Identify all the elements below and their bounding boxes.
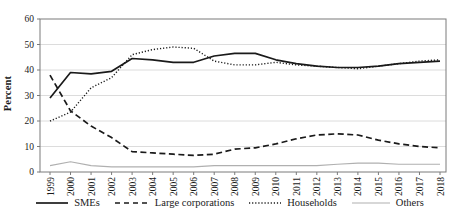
legend-label-others: Others <box>396 197 424 208</box>
legend-item-households: Households <box>248 197 337 208</box>
svg-text:2011: 2011 <box>292 177 302 196</box>
svg-text:2008: 2008 <box>230 177 240 196</box>
svg-text:2001: 2001 <box>87 177 97 196</box>
legend: SMEs Large corporations Households Other… <box>0 197 459 208</box>
svg-text:2010: 2010 <box>271 177 281 196</box>
svg-text:2013: 2013 <box>333 177 343 196</box>
legend-item-smes: SMEs <box>35 197 100 208</box>
plot-area: 0102030405060199920002001200220032004200… <box>0 0 459 224</box>
legend-item-others: Others <box>351 197 424 208</box>
svg-text:2000: 2000 <box>66 177 76 196</box>
legend-item-large-corporations: Large corporations <box>114 197 234 208</box>
svg-text:2012: 2012 <box>312 177 322 196</box>
others-line-sample-icon <box>351 199 391 207</box>
legend-label-households: Households <box>287 197 337 208</box>
legend-label-large-corporations: Large corporations <box>155 197 234 208</box>
svg-text:2005: 2005 <box>169 177 179 196</box>
svg-text:10: 10 <box>25 142 35 152</box>
svg-text:2016: 2016 <box>394 177 404 196</box>
svg-text:2015: 2015 <box>374 177 384 196</box>
svg-text:2009: 2009 <box>251 177 261 196</box>
svg-text:2017: 2017 <box>415 177 425 196</box>
svg-text:2018: 2018 <box>436 177 446 196</box>
svg-text:2002: 2002 <box>107 177 117 196</box>
svg-text:30: 30 <box>25 91 35 101</box>
line-chart: 0102030405060199920002001200220032004200… <box>0 0 459 224</box>
legend-label-smes: SMEs <box>74 197 100 208</box>
svg-text:50: 50 <box>25 40 35 50</box>
svg-text:2003: 2003 <box>128 177 138 196</box>
svg-text:2006: 2006 <box>189 177 199 196</box>
y-axis-title: Percent <box>2 60 13 128</box>
svg-text:2014: 2014 <box>353 177 363 196</box>
svg-text:0: 0 <box>29 167 34 177</box>
svg-text:60: 60 <box>25 14 35 24</box>
svg-text:20: 20 <box>25 116 35 126</box>
svg-text:2007: 2007 <box>210 177 220 196</box>
svg-text:1999: 1999 <box>46 177 56 196</box>
smes-line-sample-icon <box>35 199 69 207</box>
svg-text:2004: 2004 <box>148 177 158 196</box>
large-corporations-line-sample-icon <box>114 199 150 207</box>
svg-text:40: 40 <box>25 65 35 75</box>
households-line-sample-icon <box>248 199 282 207</box>
